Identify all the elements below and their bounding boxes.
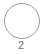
- step-circle[interactable]: [4, 3, 40, 39]
- step-number-label: 2: [0, 39, 42, 52]
- step-indicator[interactable]: 2: [0, 0, 46, 54]
